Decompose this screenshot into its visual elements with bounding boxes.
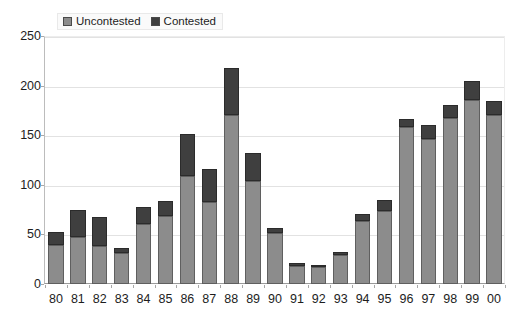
bar-segment-contested xyxy=(202,169,217,202)
x-axis-tick xyxy=(439,285,440,288)
x-axis-tick-label: 89 xyxy=(246,293,260,306)
bar-segment-uncontested xyxy=(70,237,85,284)
bar-segment-uncontested xyxy=(355,221,370,284)
bar-group xyxy=(48,232,63,284)
y-axis-tick-label: 100 xyxy=(5,179,41,192)
x-axis-tick-label: 80 xyxy=(49,293,63,306)
x-axis-tick xyxy=(395,285,396,288)
x-axis-tick-label: 94 xyxy=(356,293,370,306)
bar-group xyxy=(267,228,282,284)
bar-group xyxy=(311,265,326,284)
bar-segment-contested xyxy=(92,217,107,247)
x-axis-tick-label: 90 xyxy=(268,293,282,306)
bar-segment-contested xyxy=(377,200,392,211)
bar-group xyxy=(180,134,195,284)
bar-segment-contested xyxy=(48,232,63,245)
bar-group xyxy=(333,252,348,284)
bar-segment-uncontested xyxy=(333,255,348,284)
bar-group xyxy=(355,214,370,284)
y-axis-tick xyxy=(41,284,44,285)
legend-swatch-uncontested xyxy=(63,17,72,26)
legend-entry-contested: Contested xyxy=(151,16,216,28)
bar-segment-contested xyxy=(136,207,151,224)
x-axis-tick-label: 92 xyxy=(312,293,326,306)
x-axis-tick xyxy=(330,285,331,288)
bar-segment-uncontested xyxy=(399,127,414,284)
y-axis-tick-label: 200 xyxy=(5,79,41,92)
bar-segment-contested xyxy=(399,119,414,127)
bar-group xyxy=(158,201,173,284)
bar-group xyxy=(136,207,151,284)
bar-segment-uncontested xyxy=(311,267,326,284)
bar-group xyxy=(92,217,107,284)
x-axis-tick xyxy=(198,285,199,288)
x-axis-tick xyxy=(264,285,265,288)
bar-segment-contested xyxy=(245,153,260,181)
x-axis-tick xyxy=(483,285,484,288)
x-axis-tick-label: 93 xyxy=(334,293,348,306)
bar-group xyxy=(224,68,239,284)
x-axis-tick-label: 87 xyxy=(202,293,216,306)
x-axis-tick xyxy=(89,285,90,288)
bar-segment-uncontested xyxy=(48,245,63,284)
bar-segment-uncontested xyxy=(377,211,392,284)
bar-segment-contested xyxy=(224,68,239,116)
bar-group xyxy=(202,169,217,284)
bar-group xyxy=(486,100,501,284)
bar-segment-uncontested xyxy=(267,233,282,284)
x-axis-tick xyxy=(308,285,309,288)
bar-group xyxy=(464,81,479,284)
x-axis-tick-label: 97 xyxy=(421,293,435,306)
bar-segment-contested xyxy=(333,252,348,255)
x-axis-tick xyxy=(155,285,156,288)
bar-segment-uncontested xyxy=(114,253,129,284)
legend-entry-uncontested: Uncontested xyxy=(63,16,141,28)
x-axis-tick xyxy=(176,285,177,288)
bar-segment-uncontested xyxy=(92,246,107,284)
bar-segment-contested xyxy=(267,228,282,233)
bar-segment-contested xyxy=(421,125,436,139)
bar-segment-contested xyxy=(443,105,458,118)
bar-group xyxy=(289,263,304,284)
x-axis-tick xyxy=(242,285,243,288)
bar-segment-uncontested xyxy=(421,139,436,284)
y-axis-tick-label: 250 xyxy=(5,30,41,43)
bar-group xyxy=(399,119,414,284)
bar-segment-uncontested xyxy=(464,100,479,285)
bar-segment-contested xyxy=(486,101,501,116)
bar-group xyxy=(443,105,458,284)
bar-group xyxy=(245,153,260,284)
y-axis-tick-label: 150 xyxy=(5,129,41,142)
x-axis-tick-label: 98 xyxy=(443,293,457,306)
bars-layer xyxy=(45,36,505,284)
y-axis: 050100150200250 xyxy=(0,36,41,285)
x-axis-tick xyxy=(111,285,112,288)
x-axis-tick-label: 81 xyxy=(71,293,85,306)
x-axis-tick xyxy=(220,285,221,288)
legend-swatch-contested xyxy=(151,17,160,26)
bar-segment-contested xyxy=(180,134,195,176)
bar-segment-uncontested xyxy=(224,115,239,284)
x-axis-tick-label: 99 xyxy=(465,293,479,306)
stacked-bar-chart: Uncontested Contested 050100150200250 80… xyxy=(0,0,515,318)
x-axis-tick-label: 82 xyxy=(93,293,107,306)
bar-segment-uncontested xyxy=(136,224,151,285)
bar-segment-contested xyxy=(311,265,326,267)
x-axis-tick-label: 83 xyxy=(115,293,129,306)
x-axis-tick xyxy=(505,285,506,288)
x-axis-tick xyxy=(133,285,134,288)
x-axis-tick xyxy=(461,285,462,288)
bar-segment-contested xyxy=(114,248,129,253)
bar-group xyxy=(70,210,85,284)
x-axis-tick xyxy=(417,285,418,288)
legend-label-uncontested: Uncontested xyxy=(76,16,141,28)
bar-segment-uncontested xyxy=(443,118,458,284)
x-axis-tick-label: 96 xyxy=(399,293,413,306)
bar-segment-uncontested xyxy=(202,202,217,284)
x-axis-tick-label: 84 xyxy=(137,293,151,306)
legend-label-contested: Contested xyxy=(164,16,216,28)
bar-segment-contested xyxy=(158,201,173,216)
x-axis-tick-label: 88 xyxy=(224,293,238,306)
x-axis-tick-label: 95 xyxy=(378,293,392,306)
bar-segment-contested xyxy=(464,81,479,100)
